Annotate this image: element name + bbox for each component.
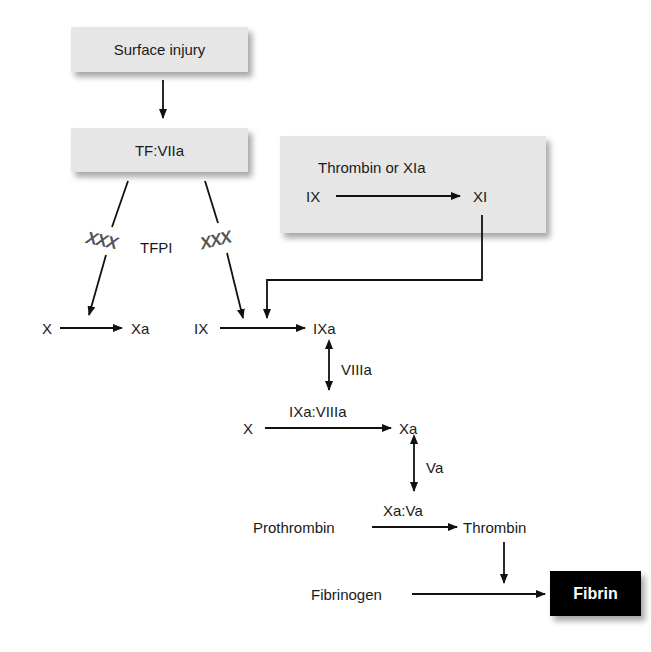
node-ixa: IXa — [313, 321, 336, 336]
node-fibrinogen: Fibrinogen — [311, 587, 382, 602]
thrombin-or-xia-label: Thrombin or XIa — [318, 160, 426, 175]
intrinsic-activation-box: Thrombin or XIa IX XI — [280, 136, 546, 233]
arrow-tf-to-ix — [227, 253, 243, 318]
tf-viia-box: TF:VIIa — [71, 128, 248, 172]
node-va: Va — [426, 460, 443, 475]
surface-injury-box: Surface injury — [71, 27, 248, 72]
node-thrombin: Thrombin — [463, 520, 526, 535]
node-xa-va: Xa:Va — [383, 503, 423, 518]
node-xa-first: Xa — [131, 321, 149, 336]
tf-viia-label: TF:VIIa — [135, 142, 184, 159]
fibrin-box: Fibrin — [550, 571, 641, 616]
node-ixa-viiia: IXa:VIIIa — [289, 404, 347, 419]
tfpi-label: TFPI — [140, 240, 173, 255]
tfpi-inhibition-mark-right: XXX — [198, 228, 232, 252]
arrow-tf-to-x — [89, 255, 106, 315]
intrinsic-ix-label: IX — [306, 189, 320, 204]
fibrin-label: Fibrin — [573, 585, 617, 603]
surface-injury-label: Surface injury — [114, 41, 206, 58]
node-xa-second: Xa — [399, 421, 417, 436]
node-ix: IX — [194, 321, 208, 336]
tfpi-inhibition-mark-left: XXX — [85, 229, 119, 252]
intrinsic-xi-label: XI — [473, 189, 487, 204]
node-prothrombin: Prothrombin — [253, 520, 335, 535]
node-x-first: X — [42, 321, 52, 336]
node-viiia: VIIIa — [341, 362, 372, 377]
node-x-second: X — [243, 421, 253, 436]
